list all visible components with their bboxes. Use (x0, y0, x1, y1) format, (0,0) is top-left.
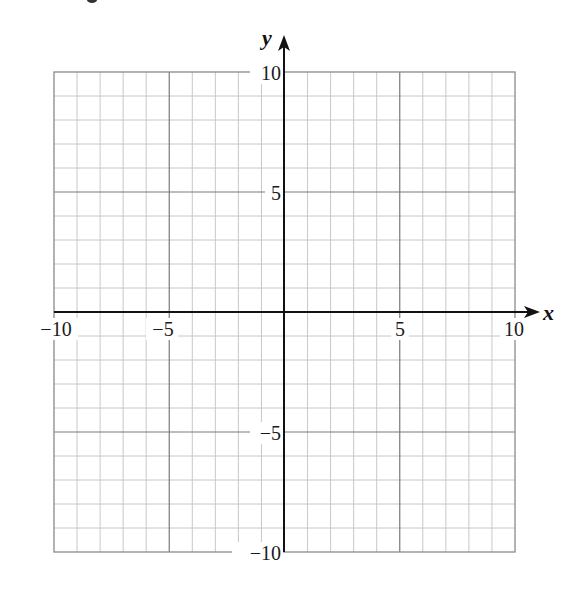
x-tick-label-neg5: −5 (152, 318, 173, 340)
y-tick-label-5: 5 (271, 182, 281, 204)
y-tick-label-neg10: −10 (250, 542, 281, 564)
coordinate-plane: x y 10 5 −5 −10 −10 −5 5 10 (0, 0, 575, 595)
y-tick-label-10: 10 (261, 62, 281, 84)
x-tick-label-10: 10 (504, 318, 524, 340)
x-tick-label-neg10: −10 (40, 318, 71, 340)
x-axis-label: x (542, 300, 554, 325)
y-axis-label: y (259, 25, 272, 50)
y-tick-label-neg5: −5 (260, 422, 281, 444)
cropped-text-fragment (87, 0, 97, 3)
x-tick-label-5: 5 (395, 318, 405, 340)
